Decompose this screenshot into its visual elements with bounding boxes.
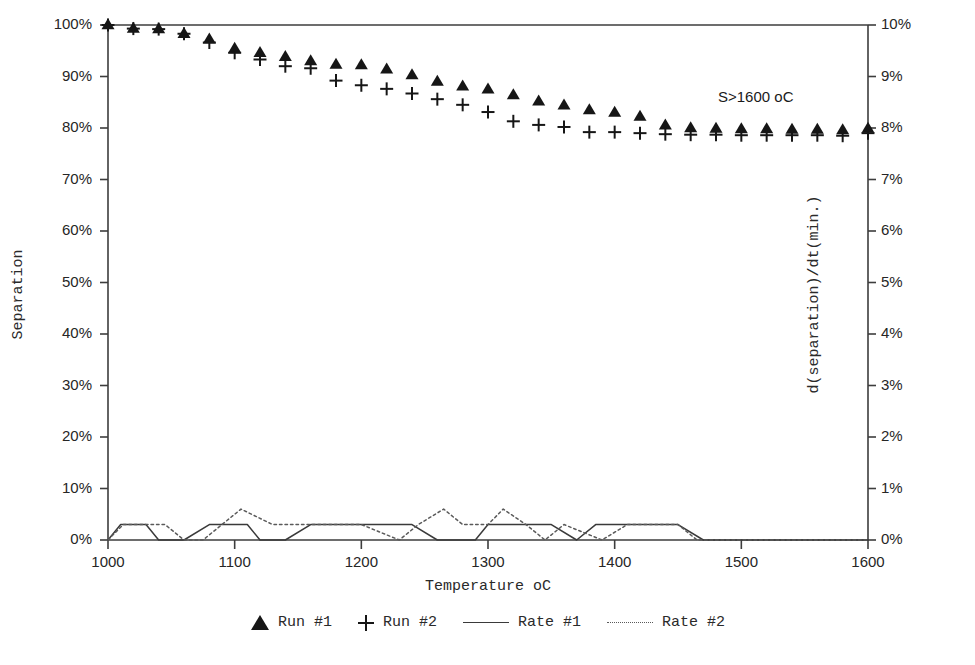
x-tick-label: 1100 (190, 553, 280, 570)
y-tick-label-right: 10% (881, 15, 911, 32)
marker-triangle (456, 79, 469, 90)
marker-triangle (406, 68, 419, 79)
y-tick-label-right: 9% (881, 67, 903, 84)
marker-plus (456, 98, 469, 111)
marker-plus (659, 128, 672, 141)
rate-line (108, 509, 868, 540)
marker-plus (558, 120, 571, 133)
marker-triangle (330, 58, 343, 69)
rate-series-lines (108, 509, 868, 540)
chart-legend: Run #1Run #2Rate #1Rate #2 (108, 614, 868, 631)
marker-plus (532, 118, 545, 131)
legend-label: Run #2 (383, 614, 437, 631)
y-tick-label-left: 30% (0, 376, 92, 393)
legend-item[interactable]: Rate #1 (463, 614, 581, 631)
y-tick-label-right: 2% (881, 427, 903, 444)
marker-plus (406, 87, 419, 100)
y-tick-label-right: 6% (881, 221, 903, 238)
y-tick-label-left: 10% (0, 479, 92, 496)
y-tick-label-right: 5% (881, 273, 903, 290)
marker-plus (431, 93, 444, 106)
chart-figure: 0%10%20%30%40%50%60%70%80%90%100%0%1%2%3… (0, 0, 975, 665)
x-tick-label: 1600 (823, 553, 913, 570)
marker-plus (355, 79, 368, 92)
legend-label: Rate #1 (518, 614, 581, 631)
y-tick-label-left: 20% (0, 427, 92, 444)
legend-solid-line-icon (463, 622, 509, 623)
marker-plus (608, 126, 621, 139)
y-tick-label-left: 100% (0, 15, 92, 32)
marker-plus (482, 106, 495, 119)
marker-plus (279, 60, 292, 73)
marker-triangle (431, 75, 444, 86)
legend-plus-icon (358, 615, 374, 631)
marker-triangle (558, 99, 571, 110)
legend-item[interactable]: Run #1 (251, 614, 332, 631)
marker-plus (228, 46, 241, 59)
y-tick-label-left: 80% (0, 118, 92, 135)
y-tick-label-right: 4% (881, 324, 903, 341)
marker-plus (178, 27, 191, 40)
y-tick-label-left: 70% (0, 170, 92, 187)
data-point-markers (102, 18, 875, 142)
y-tick-label-right: 7% (881, 170, 903, 187)
chart-annotation: S>1600 oC (718, 88, 793, 105)
marker-triangle (583, 103, 596, 114)
y-tick-label-right: 3% (881, 376, 903, 393)
x-tick-label: 1200 (316, 553, 406, 570)
x-axis-label: Temperature oC (108, 578, 868, 595)
y-tick-label-right: 0% (881, 530, 903, 547)
rate-line (108, 525, 868, 540)
marker-triangle (634, 110, 647, 121)
marker-triangle (532, 94, 545, 105)
marker-plus (127, 22, 140, 35)
x-tick-label: 1000 (63, 553, 153, 570)
x-tick-label: 1300 (443, 553, 533, 570)
y-tick-label-left: 90% (0, 67, 92, 84)
marker-plus (634, 127, 647, 140)
marker-triangle (355, 58, 368, 69)
y-axis-label-left: Separation (10, 215, 27, 375)
marker-plus (380, 82, 393, 95)
y-tick-label-left: 0% (0, 530, 92, 547)
marker-triangle (507, 88, 520, 99)
legend-label: Run #1 (278, 614, 332, 631)
y-axis-label-right: d(separation)/dt(min.) (806, 135, 823, 455)
x-tick-label: 1400 (570, 553, 660, 570)
legend-item[interactable]: Run #2 (358, 614, 437, 631)
legend-label: Rate #2 (662, 614, 725, 631)
marker-plus (330, 74, 343, 87)
y-tick-label-right: 8% (881, 118, 903, 135)
y-tick-label-right: 1% (881, 479, 903, 496)
marker-triangle (279, 50, 292, 61)
marker-triangle (482, 83, 495, 94)
marker-triangle (608, 106, 621, 117)
legend-item[interactable]: Rate #2 (607, 614, 725, 631)
legend-triangle-icon (251, 615, 269, 630)
marker-plus (583, 126, 596, 139)
marker-plus (102, 19, 115, 32)
x-tick-label: 1500 (696, 553, 786, 570)
marker-triangle (380, 62, 393, 73)
legend-dotted-line-icon (607, 622, 653, 623)
marker-plus (203, 36, 216, 49)
marker-plus (507, 115, 520, 128)
